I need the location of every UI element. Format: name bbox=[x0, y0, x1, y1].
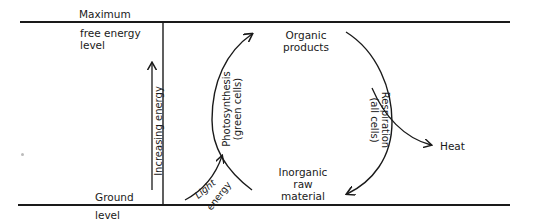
maximum-sublabel-line1: free energy bbox=[80, 27, 141, 39]
photosynthesis-line1: Photosynthesis bbox=[221, 70, 232, 148]
photosynthesis-label: Photosynthesis (green cells) bbox=[221, 70, 243, 148]
ground-sublabel: level bbox=[95, 209, 120, 221]
photosynthesis-line2: (green cells) bbox=[232, 70, 243, 148]
scan-speck bbox=[21, 153, 24, 156]
heat-label: Heat bbox=[440, 140, 465, 152]
inorganic-material-label: Inorganic raw material bbox=[268, 166, 338, 202]
maximum-sublabel-line2: level bbox=[80, 39, 105, 51]
inorganic-line2: raw bbox=[268, 178, 338, 190]
maximum-label: Maximum bbox=[79, 8, 131, 20]
respiration-label: Respiration (all cells) bbox=[369, 89, 391, 151]
increasing-energy-label: Increasing energy bbox=[153, 84, 164, 178]
organic-line1: Organic bbox=[271, 29, 341, 41]
organic-line2: products bbox=[271, 41, 341, 53]
organic-products-label: Organic products bbox=[271, 29, 341, 53]
inorganic-line3: material bbox=[268, 190, 338, 202]
respiration-line1: Respiration bbox=[380, 89, 391, 151]
inorganic-line1: Inorganic bbox=[268, 166, 338, 178]
ground-label: Ground bbox=[95, 191, 134, 203]
respiration-line2: (all cells) bbox=[369, 89, 380, 151]
